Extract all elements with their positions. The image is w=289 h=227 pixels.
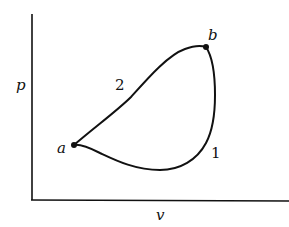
path-2-label: 2 [115, 76, 125, 94]
axes [31, 14, 289, 201]
path-1-curve [74, 47, 215, 170]
point-a-label: a [57, 139, 66, 157]
path-1-label: 1 [211, 144, 221, 162]
point-b-label: b [208, 26, 218, 44]
point-a-marker [71, 142, 77, 148]
pv-diagram: a b 2 1 p v [0, 0, 289, 227]
x-axis [31, 200, 289, 201]
point-b-marker [203, 44, 209, 50]
y-axis-label: p [16, 76, 26, 94]
x-axis-label: v [156, 206, 165, 224]
path-2-curve [74, 46, 206, 145]
